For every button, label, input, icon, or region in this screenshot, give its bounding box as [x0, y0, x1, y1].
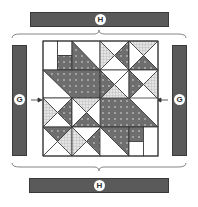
quilt-diagram: [0, 0, 198, 207]
top-brace: [12, 30, 186, 38]
quilt-center: [43, 41, 158, 156]
arrow-left-icon: [31, 98, 42, 102]
bottom-brace: [12, 163, 186, 171]
arrow-right-icon: [157, 98, 168, 102]
